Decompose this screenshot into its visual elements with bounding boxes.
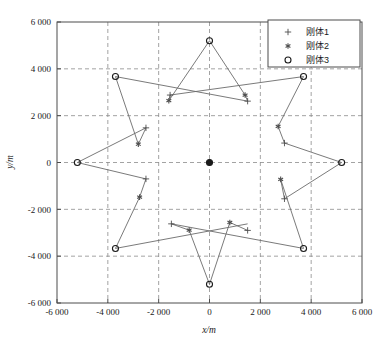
y-tick-label: 6 000 [31,17,52,27]
y-tick-label: 2 000 [31,111,52,121]
y-tick-label: 0 [47,158,52,168]
chart-legend: 刚体1刚体2刚体3 [268,20,360,67]
x-tick-label: 4 000 [301,307,322,317]
x-tick-label: -6 000 [45,307,69,317]
y-tick-label: 4 000 [31,64,52,74]
x-tick-label: 0 [207,307,212,317]
y-tick-label: -4 000 [28,251,52,261]
x-axis-label: x/m [201,325,216,335]
y-tick-label: -2 000 [28,205,52,215]
legend-label: 刚体1 [306,26,329,37]
y-tick-label: -6 000 [28,298,52,308]
x-tick-label: -2 000 [147,307,171,317]
x-tick-label: -4 000 [96,307,120,317]
chart-figure: -6 000-4 000-2 00002 0004 0006 000-6 000… [0,0,384,345]
x-tick-label: 6 000 [352,307,373,317]
y-axis-label: y/m [5,155,15,170]
legend-label: 刚体3 [306,54,329,65]
legend-label: 刚体2 [306,40,329,51]
circle-icon [207,160,213,166]
scatter-plot: -6 000-4 000-2 00002 0004 0006 000-6 000… [0,0,384,345]
x-tick-label: 2 000 [250,307,271,317]
